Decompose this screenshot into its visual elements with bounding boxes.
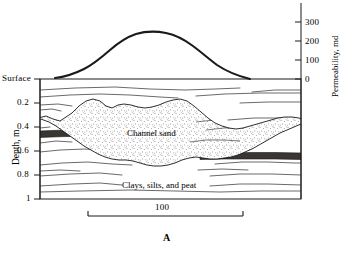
clays-silts-peat-label: Clays, silts, and peat — [122, 180, 196, 190]
perm-tick-100: 100 — [305, 55, 319, 65]
depth-tick-surface: Surface — [2, 73, 31, 83]
depth-tick-1: 1 — [26, 193, 31, 203]
perm-tick-300: 300 — [305, 17, 319, 27]
depth-axis-title: Depth, m — [11, 130, 21, 165]
figure-caption: A — [163, 232, 170, 243]
perm-tick-200: 200 — [305, 36, 319, 46]
depth-tick-0-2: 0.2 — [17, 97, 29, 107]
channel-sand-label: Channel sand — [127, 128, 176, 138]
depth-tick-0-8: 0.8 — [17, 169, 29, 179]
scale-bar-label: 100 — [155, 202, 169, 212]
permeability-axis-title: Permeability, md — [330, 36, 340, 97]
permeability-curve — [55, 32, 250, 79]
depth-axis — [34, 79, 40, 199]
perm-tick-0: 0 — [305, 74, 310, 84]
